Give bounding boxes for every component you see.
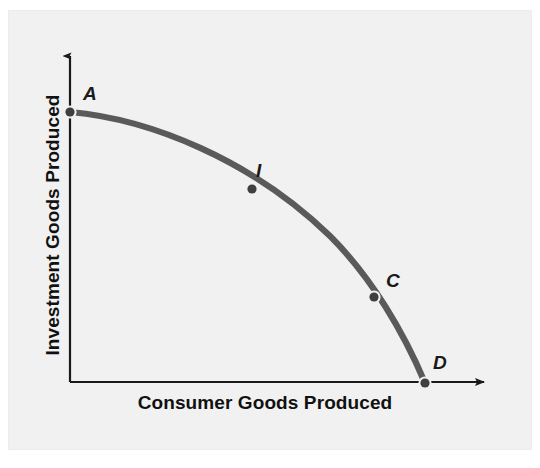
figure-canvas: A I C D Consumer Goods Produced Investme… [0, 0, 540, 468]
point-label-c: C [386, 270, 400, 292]
ppf-curve [70, 112, 425, 383]
point-label-i: I [256, 160, 261, 182]
point-label-d: D [433, 352, 447, 374]
data-point-C [367, 290, 380, 303]
y-axis-title-wrapper: Investment Goods Produced [42, 60, 68, 390]
data-point-I [245, 182, 258, 195]
data-point-D [418, 376, 431, 389]
y-axis-title: Investment Goods Produced [42, 60, 64, 390]
x-axis-title: Consumer Goods Produced [70, 392, 460, 414]
point-label-a: A [83, 83, 97, 105]
